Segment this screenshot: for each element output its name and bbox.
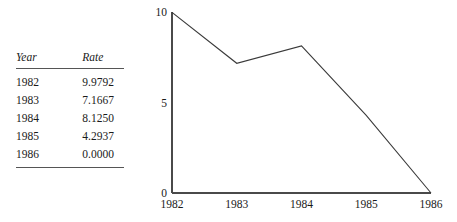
table-row: 1986 0.0000 bbox=[16, 145, 124, 168]
y-tick-label: 5 bbox=[161, 97, 167, 109]
table-row: 1982 9.9792 bbox=[16, 69, 124, 92]
cell-rate: 8.1250 bbox=[42, 109, 124, 127]
x-tick-label: 1984 bbox=[290, 198, 313, 210]
x-tick-label: 1986 bbox=[420, 198, 443, 210]
y-axis-tick-labels: 0510 bbox=[156, 6, 168, 199]
table-row: 1983 7.1667 bbox=[16, 91, 124, 109]
x-tick-label: 1982 bbox=[161, 198, 184, 210]
table-header-row: Year Rate bbox=[16, 50, 124, 69]
column-header-year: Year bbox=[16, 50, 42, 69]
cell-year: 1984 bbox=[16, 109, 42, 127]
cell-year: 1986 bbox=[16, 145, 42, 168]
cell-rate: 4.2937 bbox=[42, 127, 124, 145]
figure: Year Rate 1982 9.9792 1983 7.1667 1984 8… bbox=[0, 0, 457, 222]
table-row: 1985 4.2937 bbox=[16, 127, 124, 145]
x-tick-label: 1983 bbox=[225, 198, 248, 210]
data-series-line bbox=[172, 12, 431, 193]
table-head: Year Rate bbox=[16, 50, 124, 69]
chart-svg: 0510 19821983198419851986 bbox=[130, 0, 457, 222]
y-tick-label: 10 bbox=[156, 6, 168, 18]
cell-year: 1983 bbox=[16, 91, 42, 109]
column-header-rate: Rate bbox=[42, 50, 124, 69]
x-axis-tick-labels: 19821983198419851986 bbox=[161, 198, 443, 210]
cell-year: 1985 bbox=[16, 127, 42, 145]
cell-rate: 7.1667 bbox=[42, 91, 124, 109]
rate-line-chart: 0510 19821983198419851986 bbox=[130, 0, 457, 222]
table-body: 1982 9.9792 1983 7.1667 1984 8.1250 1985… bbox=[16, 69, 124, 168]
cell-rate: 0.0000 bbox=[42, 145, 124, 168]
table-row: 1984 8.1250 bbox=[16, 109, 124, 127]
x-tick-label: 1985 bbox=[355, 198, 378, 210]
cell-year: 1982 bbox=[16, 69, 42, 92]
cell-rate: 9.9792 bbox=[42, 69, 124, 92]
rate-data-table: Year Rate 1982 9.9792 1983 7.1667 1984 8… bbox=[16, 50, 124, 168]
table: Year Rate 1982 9.9792 1983 7.1667 1984 8… bbox=[16, 50, 124, 168]
